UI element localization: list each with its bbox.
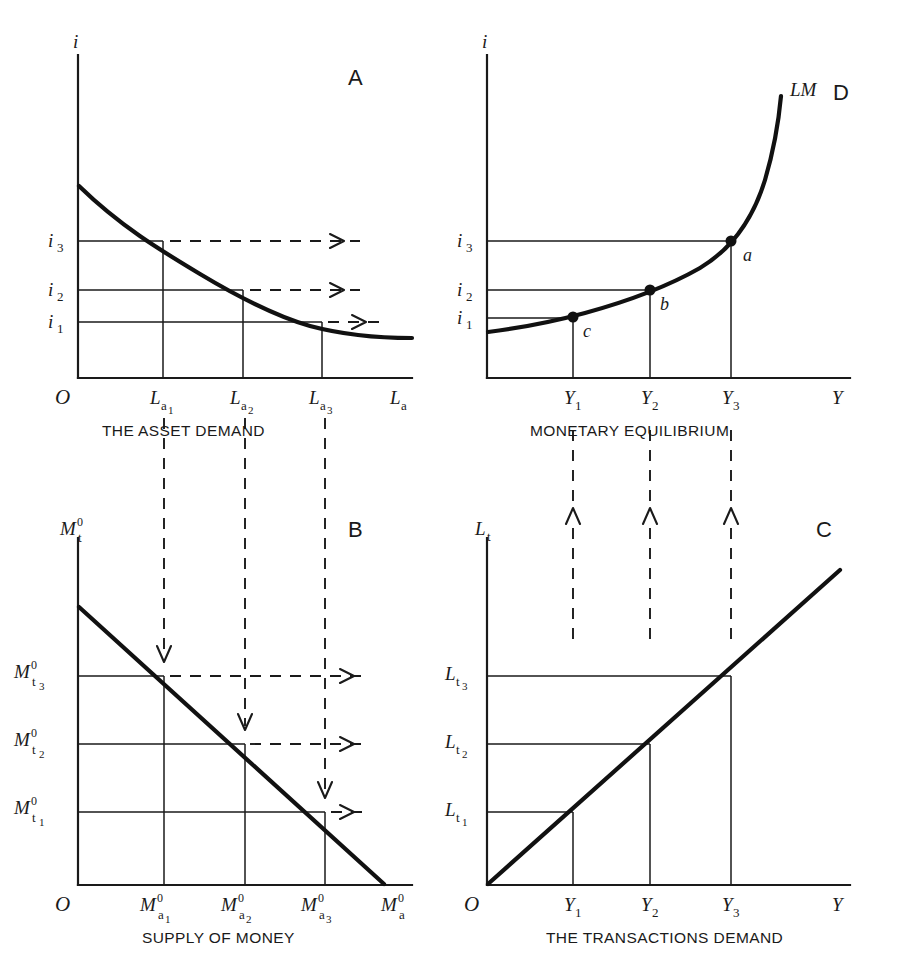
panel-a-y-tick-i3-sub: 3 [57,240,64,255]
panel-b-x-tick-ma1-sub: a [158,907,164,922]
panel-b-x-tick-ma3-sub2: 3 [326,913,332,925]
panel-c-y-tick-lt3-base: L [444,663,456,684]
panel-b-y-tick-mt1-sub2: 1 [39,816,45,828]
panel-d-point-a-dot [726,236,737,247]
panel-b-money-supply-line [79,607,384,884]
panel-b-y-tick-mt2-sub: t [32,742,36,757]
panel-a-x-axis-label-base: L [389,387,401,408]
panel-d-x-tick-y1: Y 1 [564,387,582,413]
panel-c-y-tick-lt2-sub: t [456,742,460,757]
lm-derivation-figure: i i 3 i 2 i 1 O L a 1 L a 2 L a 3 [0,0,900,977]
panel-a-x-tick-la3: L a 3 [308,387,333,416]
panel-c-transactions-demand-line [488,570,840,884]
panel-b-x-tick-ma3-base: M [300,894,318,915]
panel-d-monetary-equilibrium: c b a i i 3 i 2 i 1 Y 1 Y 2 Y 3 [457,31,850,439]
panel-b-x-tick-ma1-sup: 0 [157,891,163,905]
panel-b-x-tick-ma1-base: M [139,894,157,915]
panel-b-y-axis-label: M 0 t [59,515,83,545]
panel-b-x-tick-ma2: M 0 a 2 [220,891,252,925]
panel-d-y-tick-i1-base: i [457,307,462,328]
panel-a-y-tick-i3: i 3 [48,230,64,255]
panel-b-x-tick-ma3-sup: 0 [318,891,324,905]
panel-b-y-tick-mt2: M 0 t 2 [13,726,45,760]
panel-c-x-tick-y1: Y 1 [564,894,582,920]
panel-d-y-tick-i3: i 3 [457,230,473,255]
panel-d-y-tick-i3-base: i [457,230,462,251]
panel-b-y-tick-mt1: M 0 t 1 [13,794,45,828]
panel-c-y-tick-lt3-sub: t [456,674,460,689]
panel-c-x-axis-label: Y [832,894,845,915]
panel-b-y-tick-mt3-sup: 0 [31,658,37,672]
panel-d-y-axis-label: i [482,31,487,52]
panel-a-origin-label: O [55,385,70,409]
panel-b-arrowhead-mt2 [340,737,354,751]
panel-d-caption: MONETARY EQUILIBRIUM [530,422,729,439]
panel-b-y-tick-mt2-base: M [13,729,31,750]
panel-b-y-tick-mt3-sub2: 3 [39,680,45,692]
panel-a-asset-demand: i i 3 i 2 i 1 O L a 1 L a 2 L a 3 [48,31,412,439]
panel-c-origin-label: O [464,892,479,916]
panel-c-x-tick-y1-sub: 1 [575,905,582,920]
panel-b-arrowhead-mt1 [340,805,354,819]
panel-d-x-tick-y1-sub: 1 [575,398,582,413]
panel-a-x-tick-la3-sub2: 3 [327,404,333,416]
panel-c-x-tick-y2: Y 2 [641,894,659,920]
panel-d-x-tick-y2-sub: 2 [652,398,659,413]
panel-d-point-a-label: a [743,245,752,265]
panel-b-y-tick-mt3-sub: t [32,674,36,689]
flow-transactions-demand-to-equilibrium [566,430,738,640]
flow-arrowhead-y3-up [724,508,738,524]
panel-a-x-tick-la3-sub: a [320,398,326,413]
panel-c-y-tick-lt2-base: L [444,731,456,752]
flow-arrowhead-y2-up [643,508,657,524]
panel-b-y-tick-mt2-sup: 0 [31,726,37,740]
panel-b-arrowhead-mt3 [340,669,354,683]
panel-c-x-tick-y3: Y 3 [722,894,740,920]
panel-b-x-tick-ma2-sup: 0 [238,891,244,905]
panel-d-lm-curve-label: LM [789,79,818,100]
panel-a-x-tick-la2-base: L [229,387,241,408]
panel-a-x-tick-la1-sub: a [161,398,167,413]
panel-b-x-axis-label-sup: 0 [398,891,404,905]
panel-a-y-tick-i1-sub: 1 [57,321,64,336]
panel-b-y-tick-mt3: M 0 t 3 [13,658,45,692]
panel-d-y-tick-i3-sub: 3 [466,240,473,255]
panel-d-point-c-dot [568,312,579,323]
panel-d-lm-curve [488,96,781,332]
panel-d-x-tick-y2: Y 2 [641,387,659,413]
panel-b-y-tick-mt1-sub: t [32,810,36,825]
panel-b-y-tick-mt2-sub2: 2 [39,748,45,760]
panel-b-supply-of-money: M 0 t M 0 t 3 M 0 t 2 M 0 t 1 O M 0 [13,515,412,946]
panel-b-y-axis-label-sub: t [78,530,82,545]
panel-c-y-axis-label: L t [474,518,491,544]
flow-asset-demand-to-money-supply [157,418,332,798]
panel-d-y-tick-i2: i 2 [457,279,473,304]
panel-c-y-tick-lt3-sub2: 3 [462,680,468,692]
panel-d-y-tick-i2-sub: 2 [466,289,473,304]
panel-a-caption: THE ASSET DEMAND [102,422,265,439]
panel-a-y-tick-i2-sub: 2 [57,289,64,304]
panel-c-y-tick-lt1-sub: t [456,810,460,825]
panel-b-y-tick-mt1-sup: 0 [31,794,37,808]
panel-b-x-tick-ma2-sub2: 2 [246,913,252,925]
panel-c-y-tick-lt1-sub2: 1 [462,816,468,828]
panel-b-x-tick-ma3: M 0 a 3 [300,891,332,925]
panel-c-y-tick-lt2: L t 2 [444,731,468,760]
panel-a-y-axis-label: i [73,31,78,52]
panel-b-origin-label: O [55,892,70,916]
panel-a-x-tick-la3-base: L [308,387,320,408]
panel-c-y-axis-label-base: L [474,518,486,539]
panel-d-x-tick-y3: Y 3 [722,387,740,413]
panel-b-y-tick-mt3-base: M [13,661,31,682]
panel-b-x-tick-ma1-sub2: 1 [165,913,171,925]
panel-a-y-tick-i1: i 1 [48,311,64,336]
panel-b-x-axis-label-sub: a [399,907,405,922]
panel-b-caption: SUPPLY OF MONEY [142,929,295,946]
panel-a-x-axis-label: L a [389,387,407,413]
flow-arrowhead-y1-up [566,508,580,524]
panel-a-letter: A [348,65,363,90]
panel-c-y-tick-lt3: L t 3 [444,663,468,692]
panel-b-y-axis-label-base: M [59,518,77,539]
panel-d-x-tick-y3-sub: 3 [733,398,740,413]
panel-b-x-tick-ma3-sub: a [319,907,325,922]
